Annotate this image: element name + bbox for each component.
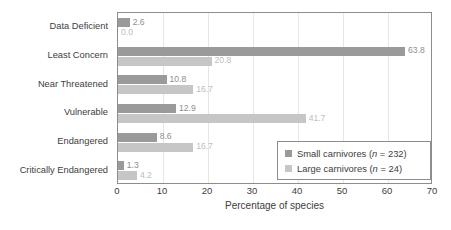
x-tick-label: 0	[114, 185, 119, 196]
bar-value-label: 20.8	[215, 56, 232, 65]
bar-large	[118, 143, 193, 152]
bar-value-label: 16.7	[196, 85, 213, 94]
bar-value-label: 41.7	[309, 114, 326, 123]
bar-small	[118, 47, 405, 56]
category-label: Endangered	[0, 136, 108, 146]
legend-label: Large carnivores (n = 24)	[297, 163, 402, 174]
x-tick-label: 20	[202, 185, 213, 196]
bar-value-label: 63.8	[408, 46, 425, 55]
x-tick-label: 10	[157, 185, 168, 196]
x-tick-label: 40	[292, 185, 303, 196]
bar-value-label: 4.2	[140, 171, 152, 180]
bar-value-label: 1.3	[127, 161, 139, 170]
bar-small	[118, 104, 176, 113]
chart-legend: Small carnivores (n = 232)Large carnivor…	[277, 141, 431, 180]
bar-large	[118, 85, 193, 94]
bar-small	[118, 75, 167, 84]
legend-swatch-icon	[285, 165, 292, 172]
bar-value-label: 0.0	[121, 28, 133, 37]
legend-item[interactable]: Small carnivores (n = 232)	[285, 146, 430, 161]
category-label: Data Deficient	[0, 21, 108, 31]
bar-value-label: 16.7	[196, 142, 213, 151]
x-tick-label: 70	[427, 185, 438, 196]
x-axis-title: Percentage of species	[117, 200, 432, 211]
bar-small	[118, 133, 157, 142]
bar-group: 12.941.7	[118, 101, 433, 130]
x-tick-label: 50	[337, 185, 348, 196]
bar-small	[118, 161, 124, 170]
bar-chart: Data DeficientLeast ConcernNear Threaten…	[0, 0, 451, 230]
x-tick-label: 60	[382, 185, 393, 196]
category-axis-labels: Data DeficientLeast ConcernNear Threaten…	[0, 14, 113, 184]
category-label: Critically Endangered	[0, 165, 108, 175]
category-label: Near Threatened	[0, 79, 108, 89]
x-axis-ticks: 010203040506070	[117, 185, 432, 199]
category-label: Least Concern	[0, 50, 108, 60]
bar-group: 10.816.7	[118, 72, 433, 101]
bar-value-label: 2.6	[133, 18, 145, 27]
bar-group: 63.820.8	[118, 44, 433, 73]
legend-label: Small carnivores (n = 232)	[297, 148, 407, 159]
legend-swatch-icon	[285, 150, 292, 157]
bar-large	[118, 57, 212, 66]
bar-value-label: 10.8	[170, 75, 187, 84]
bar-value-label: 8.6	[160, 132, 172, 141]
bar-large	[118, 171, 137, 180]
bar-group: 2.60.0	[118, 15, 433, 44]
bar-small	[118, 18, 130, 27]
category-label: Vulnerable	[0, 107, 108, 117]
legend-item[interactable]: Large carnivores (n = 24)	[285, 161, 430, 176]
bar-value-label: 12.9	[179, 104, 196, 113]
x-tick-label: 30	[247, 185, 258, 196]
bar-large	[118, 114, 306, 123]
